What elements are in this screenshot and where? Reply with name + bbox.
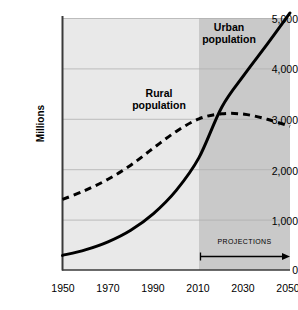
y-tick-1000: 1,000 bbox=[252, 216, 298, 226]
x-tick-2030: 2030 bbox=[223, 283, 263, 294]
urban-label-line1: Urban bbox=[214, 21, 244, 33]
y-tick-0: 0 bbox=[252, 265, 298, 275]
y-tick-4000: 4,000 bbox=[252, 64, 298, 74]
y-tick-3000: 3,000 bbox=[252, 115, 298, 125]
projection-shaded-region bbox=[199, 18, 290, 270]
y-axis-title: Millions bbox=[35, 88, 46, 160]
x-tick-1990: 1990 bbox=[133, 283, 173, 294]
rural-label-line2: population bbox=[132, 99, 186, 111]
urban-population-label: Urban population bbox=[192, 22, 266, 45]
rural-population-label: Rural population bbox=[120, 88, 198, 111]
projections-arrow-icon bbox=[199, 252, 290, 261]
urban-label-line2: population bbox=[202, 33, 256, 45]
x-tick-1950: 1950 bbox=[43, 283, 83, 294]
y-tick-2000: 2,000 bbox=[252, 166, 298, 176]
x-tick-1970: 1970 bbox=[88, 283, 128, 294]
projections-label: PROJECTIONS bbox=[199, 238, 290, 246]
x-tick-2010: 2010 bbox=[178, 283, 218, 294]
population-line-chart: Millions 5,000 4,000 3,000 2,000 1,000 0… bbox=[0, 0, 298, 310]
x-tick-2050: 2050 bbox=[268, 283, 298, 294]
rural-label-line1: Rural bbox=[146, 87, 173, 99]
historical-shaded-region bbox=[63, 18, 200, 270]
